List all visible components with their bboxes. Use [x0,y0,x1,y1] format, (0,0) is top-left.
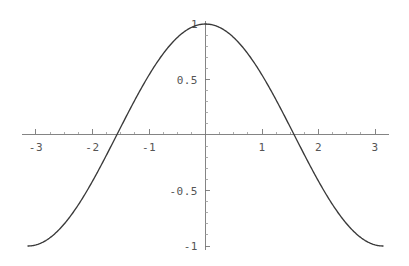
x-tick-label: 1 [258,141,265,154]
x-axis-tick-labels: -3-2-1123 [29,141,379,154]
y-tick-label: -0.5 [170,185,199,198]
x-tick-label: 3 [371,141,378,154]
y-tick-label: 1 [191,18,198,31]
x-tick-label: -1 [142,141,156,154]
y-axis-tick-labels: 10.5-0.5-1 [170,18,199,253]
cosine-plot-figure: -3-2-1123 10.5-0.5-1 [0,0,409,266]
x-axis-major-ticks [36,129,375,134]
y-tick-label: -1 [184,240,198,253]
plot-canvas: -3-2-1123 10.5-0.5-1 [0,0,409,266]
y-tick-label: 0.5 [177,74,198,87]
x-tick-label: 2 [315,141,322,154]
axes-group [22,21,389,250]
x-tick-label: -2 [85,141,99,154]
x-tick-label: -3 [29,141,43,154]
